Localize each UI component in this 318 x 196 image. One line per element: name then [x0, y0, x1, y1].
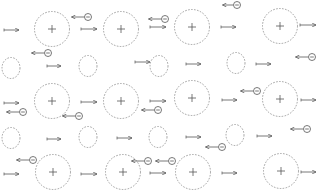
right-arrow-icon — [117, 137, 132, 140]
ion-core — [35, 84, 70, 119]
right-arrow-icon — [47, 65, 61, 68]
electron — [142, 107, 162, 114]
ion-core — [176, 155, 211, 190]
vacancy — [79, 56, 97, 77]
plus-icon — [48, 25, 56, 33]
right-arrow-icon — [150, 172, 166, 175]
right-arrow-icon — [4, 102, 19, 105]
plus-icon — [277, 167, 285, 175]
electrons — [7, 2, 316, 165]
electron — [156, 158, 176, 165]
plus-icon — [119, 168, 127, 176]
electron — [17, 157, 37, 164]
right-arrow-icon — [81, 28, 97, 31]
plus-icon — [276, 95, 284, 103]
vacancy — [227, 53, 245, 74]
electron — [241, 88, 261, 95]
right-arrow-icon — [47, 138, 61, 141]
ion-core — [35, 12, 70, 47]
electron — [63, 113, 83, 120]
ion-core — [104, 84, 139, 119]
electron — [296, 54, 316, 61]
vacancy — [2, 58, 20, 79]
right-arrow-icon — [301, 171, 316, 174]
right-arrow-icon — [221, 26, 236, 29]
plus-icon — [117, 25, 125, 33]
right-arrow-icon — [256, 63, 271, 66]
electron — [72, 14, 92, 21]
right-arrow-icon — [150, 26, 166, 29]
electron — [223, 2, 241, 9]
right-arrow-icon — [300, 24, 316, 27]
right-arrow-icon — [4, 29, 19, 32]
vacancy — [226, 125, 244, 146]
plus-icon — [117, 97, 125, 105]
electron — [149, 16, 169, 23]
ion-core — [175, 10, 210, 45]
right-arrow-icon — [186, 136, 201, 139]
electron — [32, 50, 52, 57]
vacancy-sites — [2, 53, 245, 149]
vacancy — [2, 128, 20, 149]
vacancy — [149, 127, 167, 148]
plus-icon — [189, 168, 197, 176]
vacancy — [150, 56, 168, 77]
right-arrow-icon — [150, 100, 166, 103]
right-arrow-icon — [222, 99, 237, 102]
electron-drift-diagram — [0, 0, 318, 196]
ion-core — [36, 155, 71, 190]
plus-icon — [188, 23, 196, 31]
plus-icon — [188, 94, 196, 102]
right-arrow-icon — [301, 99, 316, 102]
right-arrow-icon — [4, 173, 19, 176]
ion-core — [264, 154, 299, 189]
right-arrow-icon — [81, 173, 97, 176]
right-arrow-icon — [135, 61, 150, 64]
ion-cores — [35, 9, 299, 190]
right-arrow-icon — [257, 135, 272, 138]
vacancy — [79, 127, 97, 148]
electron — [7, 109, 27, 116]
ion-core — [263, 9, 298, 44]
plus-icon — [276, 22, 284, 30]
ion-core — [104, 12, 139, 47]
electron — [291, 126, 311, 133]
ion-core — [263, 82, 298, 117]
right-arrow-icon — [186, 63, 201, 66]
ion-core — [106, 155, 141, 190]
plus-icon — [49, 168, 57, 176]
plus-icon — [48, 97, 56, 105]
electron — [206, 144, 226, 151]
ion-core — [175, 81, 210, 116]
right-arrow-icon — [222, 172, 237, 175]
right-arrow-icon — [81, 101, 97, 104]
